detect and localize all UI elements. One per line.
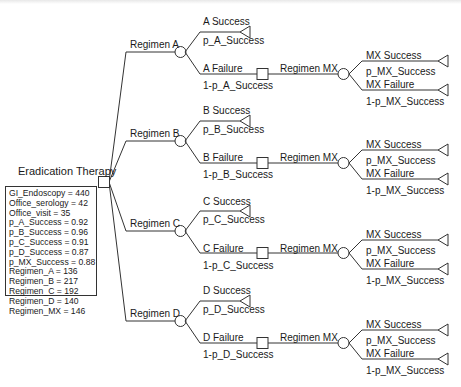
b-failure-label: B Failure [203, 152, 243, 163]
branch-line [109, 182, 126, 321]
a-mx-success-prob: p_MX_Success [366, 66, 435, 77]
branch-line [185, 32, 200, 52]
c-success-label: C Success [203, 196, 251, 207]
c-mx-failure-label: MX Failure [366, 258, 414, 269]
a-mx-failure-label: MX Failure [366, 79, 414, 90]
variables-box: GI_Endoscopy = 440 Office_serology = 42 … [5, 186, 97, 296]
b-success-label: B Success [203, 105, 250, 116]
branch-line [185, 211, 200, 231]
terminal-node-icon [438, 353, 448, 365]
decision-node-icon [257, 248, 268, 259]
regimen-d-label: Regimen D [130, 308, 180, 319]
branch-line [349, 253, 362, 269]
b-mx-success-prob: p_MX_Success [366, 155, 435, 166]
b-mx-success-label: MX Success [366, 139, 422, 150]
branch-line [349, 343, 362, 359]
terminal-node-icon [438, 84, 448, 96]
b-mx-failure-label: MX Failure [366, 168, 414, 179]
regimen-c-label: Regimen C [130, 218, 180, 229]
chance-node-icon [338, 69, 349, 80]
chance-node-icon [338, 158, 349, 169]
c-rescue-label: Regimen MX [280, 243, 338, 254]
branch-line [185, 301, 200, 321]
c-mx-success-label: MX Success [366, 229, 422, 240]
chance-node-icon [338, 338, 349, 349]
branch-line [349, 330, 362, 343]
branch-line [185, 121, 200, 141]
terminal-node-icon [438, 55, 448, 67]
b-failure-prob: 1-p_B_Success [203, 169, 273, 180]
root-decision-node-icon [99, 177, 110, 188]
branch-line [349, 163, 362, 179]
d-rescue-label: Regimen MX [280, 332, 338, 343]
a-mx-failure-prob: 1-p_MX_Success [366, 96, 444, 107]
d-mx-success-label: MX Success [366, 319, 422, 330]
d-mx-failure-label: MX Failure [366, 348, 414, 359]
variable-item: Regimen_MX = 146 [9, 307, 93, 317]
c-mx-success-prob: p_MX_Success [366, 245, 435, 256]
d-mx-failure-prob: 1-p_MX_Success [366, 365, 444, 376]
branch-line [185, 141, 200, 163]
terminal-node-icon [438, 324, 448, 336]
decision-node-icon [257, 158, 268, 169]
branch-line [185, 231, 200, 253]
branch-line [349, 240, 362, 253]
d-failure-prob: 1-p_D_Success [203, 349, 274, 360]
a-rescue-label: Regimen MX [280, 63, 338, 74]
regimen-a-label: Regimen A [130, 39, 179, 50]
a-failure-label: A Failure [203, 63, 242, 74]
chance-node-icon [338, 248, 349, 259]
c-success-prob: p_C_Success [203, 214, 265, 225]
branch-line [349, 150, 362, 163]
branch-line [349, 74, 362, 90]
b-success-prob: p_B_Success [203, 124, 264, 135]
terminal-node-icon [438, 144, 448, 156]
c-failure-prob: 1-p_C_Success [203, 260, 274, 271]
decision-node-icon [257, 69, 268, 80]
branch-line [349, 61, 362, 74]
branch-line [185, 52, 200, 74]
d-mx-success-prob: p_MX_Success [366, 335, 435, 346]
terminal-node-icon [438, 263, 448, 275]
c-failure-label: C Failure [203, 243, 244, 254]
b-rescue-label: Regimen MX [280, 152, 338, 163]
terminal-node-icon [438, 234, 448, 246]
a-mx-success-label: MX Success [366, 50, 422, 61]
a-success-prob: p_A_Success [203, 35, 264, 46]
root-decision-label: Eradication Therapy [18, 165, 116, 177]
a-success-label: A Success [203, 16, 250, 27]
c-mx-failure-prob: 1-p_MX_Success [366, 275, 444, 286]
d-success-prob: p_D_Success [203, 304, 265, 315]
terminal-node-icon [438, 173, 448, 185]
decision-node-icon [257, 338, 268, 349]
d-success-label: D Success [203, 285, 251, 296]
d-failure-label: D Failure [203, 332, 244, 343]
b-mx-failure-prob: 1-p_MX_Success [366, 185, 444, 196]
regimen-b-label: Regimen B [130, 128, 179, 139]
a-failure-prob: 1-p_A_Success [203, 80, 273, 91]
branch-line [185, 321, 200, 343]
